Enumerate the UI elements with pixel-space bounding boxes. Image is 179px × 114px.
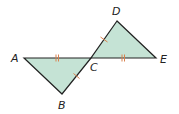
label-e: E: [160, 53, 167, 66]
triangle-dce: [91, 21, 156, 58]
label-d: D: [112, 5, 120, 18]
triangle-abc: [24, 58, 91, 94]
label-a: A: [10, 52, 19, 65]
geometry-diagram: A B C D E: [0, 0, 179, 114]
label-c: C: [90, 61, 98, 74]
label-b: B: [58, 99, 66, 112]
